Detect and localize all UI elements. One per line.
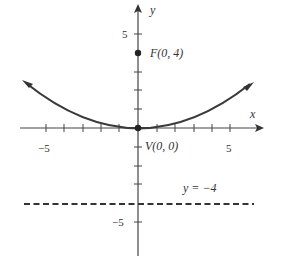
focus-point xyxy=(135,50,141,56)
vertex-label: V(0, 0) xyxy=(145,139,178,153)
x-tick-label-neg5: −5 xyxy=(38,142,50,154)
x-tick-label-5: 5 xyxy=(226,142,232,154)
focus-label: F(0, 4) xyxy=(149,46,183,60)
y-axis-label: y xyxy=(149,3,156,17)
y-tick-label-5: 5 xyxy=(122,28,128,40)
right-arrow-icon xyxy=(243,82,254,91)
x-axis-label: x xyxy=(249,107,256,121)
y-tick-label-neg5: −5 xyxy=(112,216,124,228)
directrix-label: y = −4 xyxy=(182,181,217,195)
parabola-diagram: x −5 5 y 5 −5 y = −4 F(0, 4) V(0, 0) xyxy=(0,0,282,262)
vertex-point xyxy=(135,125,141,131)
